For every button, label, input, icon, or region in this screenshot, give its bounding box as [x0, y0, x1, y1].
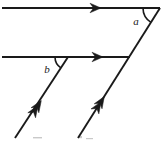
figure-canvas: a b — [0, 0, 165, 142]
angle-arc-b — [55, 57, 61, 68]
scan-artifacts — [33, 136, 93, 139]
right-diagonal-line — [78, 8, 160, 138]
left-diagonal-line — [15, 57, 68, 138]
angle-label-b: b — [44, 63, 50, 75]
angle-label-a: a — [133, 15, 139, 27]
right-diagonal-double-arrow-icon — [91, 94, 108, 114]
angle-arc-a — [143, 8, 151, 22]
geometry-figure: a b — [0, 0, 165, 142]
